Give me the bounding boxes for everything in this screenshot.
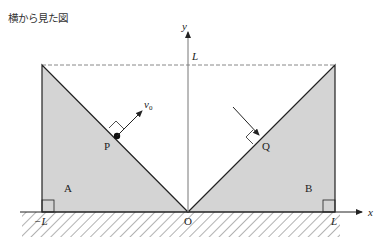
y-axis-label: y <box>181 20 187 32</box>
origin-label: O <box>184 215 192 227</box>
velocity-arrow <box>117 111 142 136</box>
block-a-label: A <box>64 182 72 194</box>
right-angle-marker-p <box>109 121 124 129</box>
x-axis-label: x <box>367 206 373 218</box>
neg-l-label: −L <box>34 215 48 227</box>
right-angle-marker-q <box>246 130 253 144</box>
incoming-arrow-q <box>233 107 259 135</box>
top-l-label: L <box>191 50 198 62</box>
block-b <box>188 65 335 212</box>
block-b-label: B <box>305 182 312 194</box>
pos-l-label: L <box>330 215 337 227</box>
point-p-label: P <box>104 140 110 152</box>
velocity-label: v0 <box>144 98 153 112</box>
point-q-label: Q <box>262 140 270 152</box>
diagram: y x L −L L O A B P Q v0 <box>0 0 390 251</box>
ground-hatch <box>22 212 340 237</box>
